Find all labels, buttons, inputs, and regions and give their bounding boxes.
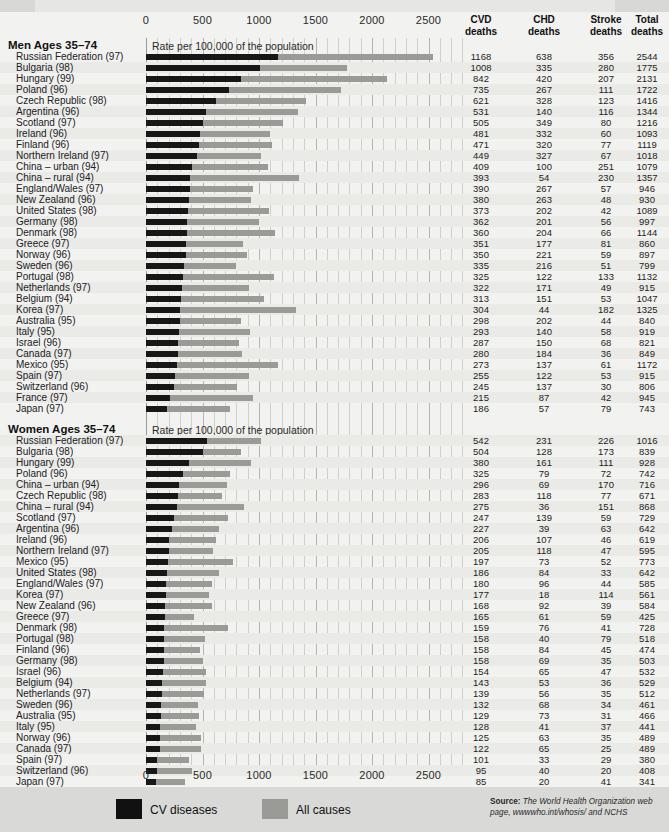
table-row[interactable]: Canada (97)28018436849 xyxy=(0,348,669,359)
table-row[interactable]: China – rural (94)393542301357 xyxy=(0,172,669,183)
table-row[interactable]: Switzerland (96)24513730806 xyxy=(0,381,669,392)
cell-total: 946 xyxy=(625,183,669,194)
legend-swatch-all-causes xyxy=(262,799,288,819)
cell-chd: 231 xyxy=(518,435,570,446)
table-row[interactable]: Scotland (97)505349801216 xyxy=(0,117,669,128)
table-row[interactable]: Germany (98)1586935503 xyxy=(0,655,669,666)
table-row[interactable]: France (97)2158742945 xyxy=(0,392,669,403)
table-row[interactable]: Korea (97)17718114561 xyxy=(0,589,669,600)
table-row[interactable]: Korea (97)304441821325 xyxy=(0,304,669,315)
table-row[interactable]: Czech Republic (98)28311877671 xyxy=(0,490,669,501)
cell-chd: 140 xyxy=(518,326,570,337)
row-label: China – rural (94) xyxy=(16,172,94,183)
table-row[interactable]: Ireland (96)481332601093 xyxy=(0,128,669,139)
cell-cvd: 481 xyxy=(455,128,507,139)
cell-cvd: 186 xyxy=(455,567,507,578)
table-row[interactable]: Czech Republic (98)6213281231416 xyxy=(0,95,669,106)
row-label: Argentina (96) xyxy=(16,523,79,534)
cell-cvd: 197 xyxy=(455,556,507,567)
cell-cvd: 158 xyxy=(455,644,507,655)
table-row[interactable]: Denmark (98)360204661144 xyxy=(0,227,669,238)
table-row[interactable]: Spain (97)25512253915 xyxy=(0,370,669,381)
table-row[interactable]: Russian Federation (97)5422312261016 xyxy=(0,435,669,446)
table-row[interactable]: Germany (98)36220156997 xyxy=(0,216,669,227)
table-row[interactable]: Bulgaria (98)10083352801775 xyxy=(0,62,669,73)
table-row[interactable]: England/Wales (97)1809644585 xyxy=(0,578,669,589)
table-row[interactable]: Australia (95)1297331466 xyxy=(0,710,669,721)
bar-cv-diseases xyxy=(146,471,183,477)
cell-cvd: 159 xyxy=(455,622,507,633)
table-row[interactable]: Australia (95)29820244840 xyxy=(0,315,669,326)
bar-cv-diseases xyxy=(146,449,203,455)
cell-cvd: 180 xyxy=(455,578,507,589)
row-label: Russian Federation (97) xyxy=(16,51,123,62)
table-row[interactable]: China – urban (94)29669170716 xyxy=(0,479,669,490)
table-row[interactable]: Mexico (95)1977352773 xyxy=(0,556,669,567)
cell-cvd: 273 xyxy=(455,359,507,370)
table-row[interactable]: Greece (97)35117781860 xyxy=(0,238,669,249)
table-row[interactable]: Sweden (96)1326834461 xyxy=(0,699,669,710)
table-row[interactable]: Argentina (96)5311401161344 xyxy=(0,106,669,117)
top-strip xyxy=(0,0,669,12)
table-row[interactable]: Finland (96)1588445474 xyxy=(0,644,669,655)
table-row[interactable]: New Zealand (96)1689239584 xyxy=(0,600,669,611)
table-row[interactable]: New Zealand (96)38026348930 xyxy=(0,194,669,205)
cell-chd: 61 xyxy=(518,611,570,622)
table-row[interactable]: Canada (97)1226525489 xyxy=(0,743,669,754)
table-row[interactable]: England/Wales (97)39026757946 xyxy=(0,183,669,194)
row-label: Spain (97) xyxy=(16,754,62,765)
table-row[interactable]: Poland (96)7352671111722 xyxy=(0,84,669,95)
table-row[interactable]: Poland (96)3257972742 xyxy=(0,468,669,479)
table-row[interactable]: Scotland (97)24713959729 xyxy=(0,512,669,523)
row-label: Belgium (94) xyxy=(16,677,73,688)
table-row[interactable]: Mexico (95)273137611172 xyxy=(0,359,669,370)
table-row[interactable]: Denmark (98)1597641728 xyxy=(0,622,669,633)
cell-chd: 128 xyxy=(518,446,570,457)
row-label: Korea (97) xyxy=(16,589,63,600)
cell-cvd: 132 xyxy=(455,699,507,710)
table-row[interactable]: Japan (97)1865779743 xyxy=(0,403,669,414)
table-row[interactable]: Israel (96)1546547532 xyxy=(0,666,669,677)
table-row[interactable]: Argentina (96)2273963642 xyxy=(0,523,669,534)
bar-cv-diseases xyxy=(146,724,160,730)
bar-cv-diseases xyxy=(146,746,160,752)
table-row[interactable]: Italy (95)1284137441 xyxy=(0,721,669,732)
table-row[interactable]: Netherlands (97)32217149915 xyxy=(0,282,669,293)
table-row[interactable]: China – urban (94)4091002511079 xyxy=(0,161,669,172)
table-row[interactable]: Italy (95)29314058919 xyxy=(0,326,669,337)
table-row[interactable]: Netherlands (97)1395635512 xyxy=(0,688,669,699)
table-row[interactable]: Portugal (98)1584079518 xyxy=(0,633,669,644)
table-row[interactable]: Hungary (99)8424202072131 xyxy=(0,73,669,84)
table-row[interactable]: Belgium (94)313151531047 xyxy=(0,293,669,304)
table-row[interactable]: United States (98)373202421089 xyxy=(0,205,669,216)
table-row[interactable]: Northern Ireland (97)20511847595 xyxy=(0,545,669,556)
cell-chd: 267 xyxy=(518,84,570,95)
axis-top-tick-1500: 1500 xyxy=(303,14,328,26)
cell-chd: 63 xyxy=(518,732,570,743)
table-row[interactable]: Israel (96)28715068821 xyxy=(0,337,669,348)
axis-bottom: 05001000150020002500 xyxy=(0,769,669,785)
table-row[interactable]: Ireland (96)20610746619 xyxy=(0,534,669,545)
table-row[interactable]: United States (98)1868433642 xyxy=(0,567,669,578)
row-label: Czech Republic (98) xyxy=(16,490,107,501)
row-label: Belgium (94) xyxy=(16,293,73,304)
table-row[interactable]: China – rural (94)27536151868 xyxy=(0,501,669,512)
table-row[interactable]: Finland (96)471320771119 xyxy=(0,139,669,150)
table-row[interactable]: Russian Federation (97)11686383562544 xyxy=(0,51,669,62)
table-row[interactable]: Norway (96)35022159897 xyxy=(0,249,669,260)
table-row[interactable]: Bulgaria (98)504128173839 xyxy=(0,446,669,457)
table-row[interactable]: Greece (97)1656159425 xyxy=(0,611,669,622)
cell-total: 728 xyxy=(625,622,669,633)
table-row[interactable]: Hungary (99)380161111928 xyxy=(0,457,669,468)
row-label: Sweden (96) xyxy=(16,260,73,271)
table-row[interactable]: Norway (96)1256335489 xyxy=(0,732,669,743)
table-row[interactable]: Belgium (94)1435336529 xyxy=(0,677,669,688)
row-label: England/Wales (97) xyxy=(16,578,103,589)
table-row[interactable]: Sweden (96)33521651799 xyxy=(0,260,669,271)
bar-cv-diseases xyxy=(146,175,190,181)
table-row[interactable]: Spain (97)1013329380 xyxy=(0,754,669,765)
cell-cvd: 362 xyxy=(455,216,507,227)
bar-cv-diseases xyxy=(146,460,189,466)
table-row[interactable]: Northern Ireland (97)449327671018 xyxy=(0,150,669,161)
table-row[interactable]: Portugal (98)3251221331132 xyxy=(0,271,669,282)
